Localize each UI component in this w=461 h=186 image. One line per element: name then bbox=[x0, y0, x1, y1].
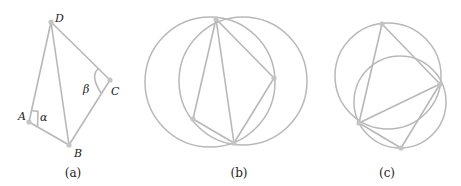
point-c-right bbox=[437, 81, 442, 86]
caption-a: (a) bbox=[65, 166, 82, 180]
panel-a: D A B C α β (a) bbox=[17, 12, 120, 180]
segment-b-left-bottom bbox=[193, 119, 234, 143]
diagonal-db bbox=[51, 22, 69, 145]
caption-b: (b) bbox=[230, 166, 247, 180]
label-beta: β bbox=[82, 83, 89, 96]
point-d bbox=[48, 19, 53, 24]
segment-c-top-right bbox=[382, 24, 440, 84]
caption-c: (c) bbox=[379, 166, 395, 180]
point-b-right bbox=[271, 75, 276, 80]
label-alpha: α bbox=[40, 111, 48, 124]
segment-b-top-left bbox=[193, 19, 216, 119]
circle-lower bbox=[354, 56, 446, 148]
label-c: C bbox=[111, 85, 120, 98]
point-b bbox=[66, 142, 71, 147]
point-c bbox=[107, 77, 112, 82]
segment-bc bbox=[69, 80, 110, 145]
segment-ab bbox=[29, 122, 69, 145]
label-d: D bbox=[54, 12, 64, 25]
point-c-top bbox=[379, 21, 384, 26]
segment-c-top-left bbox=[359, 24, 382, 123]
figure: D A B C α β (a) (b) (c) bbox=[0, 0, 461, 186]
panel-b: (b) bbox=[145, 16, 307, 180]
point-b-left bbox=[190, 116, 195, 121]
label-b: B bbox=[73, 147, 82, 160]
circle-right bbox=[179, 17, 307, 145]
point-a bbox=[26, 119, 31, 124]
figure-canvas: D A B C α β (a) (b) (c) bbox=[0, 0, 461, 186]
diagonal-b bbox=[216, 19, 234, 143]
circle-upper bbox=[335, 23, 441, 129]
angle-beta-mark bbox=[95, 69, 101, 93]
point-b-top bbox=[213, 16, 218, 21]
point-c-bottom bbox=[398, 145, 403, 150]
segment-da bbox=[29, 22, 51, 122]
point-b-bottom bbox=[231, 140, 236, 145]
circle-left bbox=[145, 17, 275, 147]
panel-c: (c) bbox=[335, 21, 446, 180]
label-a: A bbox=[17, 110, 26, 123]
segment-cd bbox=[51, 22, 110, 80]
point-c-left bbox=[356, 120, 361, 125]
